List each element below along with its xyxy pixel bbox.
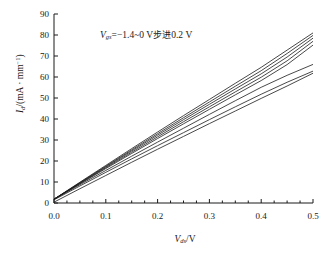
chart-annotation: Vgs=−1.4~0 V步进0.2 V [100, 28, 192, 41]
x-axis-unit: /V [186, 234, 196, 244]
annotation-step-text: 步进 [153, 30, 171, 40]
y-tick-label: 0 [27, 199, 49, 208]
y-axis-ticks [54, 14, 58, 203]
y-tick-label: 40 [27, 115, 49, 124]
y-tick-label: 10 [27, 178, 49, 187]
x-tick-label: 0.2 [145, 212, 171, 221]
x-axis-label: Vds/V [130, 234, 240, 244]
x-axis-ticks [54, 199, 313, 203]
y-axis-label: Id/(mA · mm−1) [14, 34, 25, 134]
x-tick-label: 0.0 [41, 212, 67, 221]
y-tick-label: 30 [27, 136, 49, 145]
data-curves [54, 33, 313, 202]
y-tick-label: 50 [27, 94, 49, 103]
annotation-step-value: 0.2 V [171, 30, 192, 40]
x-tick-label: 0.3 [196, 212, 222, 221]
x-tick-label: 0.4 [248, 212, 274, 221]
y-tick-label: 70 [27, 52, 49, 61]
y-axis-unit-close: ) [15, 54, 25, 57]
x-tick-label: 0.1 [93, 212, 119, 221]
y-axis-unit-exponent: −1 [14, 57, 21, 64]
curve-series-7 [54, 73, 313, 202]
y-axis-symbol: I [15, 110, 25, 113]
x-tick-label: 0.5 [300, 212, 326, 221]
y-tick-label: 80 [27, 31, 49, 40]
annotation-range: =−1.4~0 V [112, 30, 154, 40]
curve-series-6 [54, 71, 313, 200]
y-axis-unit-open: /(mA · mm [15, 64, 25, 106]
y-axis-symbol-subscript: d [19, 107, 26, 110]
figure-container: 0102030405060708090 0.00.10.20.30.40.5 I… [0, 0, 329, 256]
y-tick-label: 20 [27, 157, 49, 166]
y-tick-label: 90 [27, 10, 49, 19]
y-tick-label: 60 [27, 73, 49, 82]
